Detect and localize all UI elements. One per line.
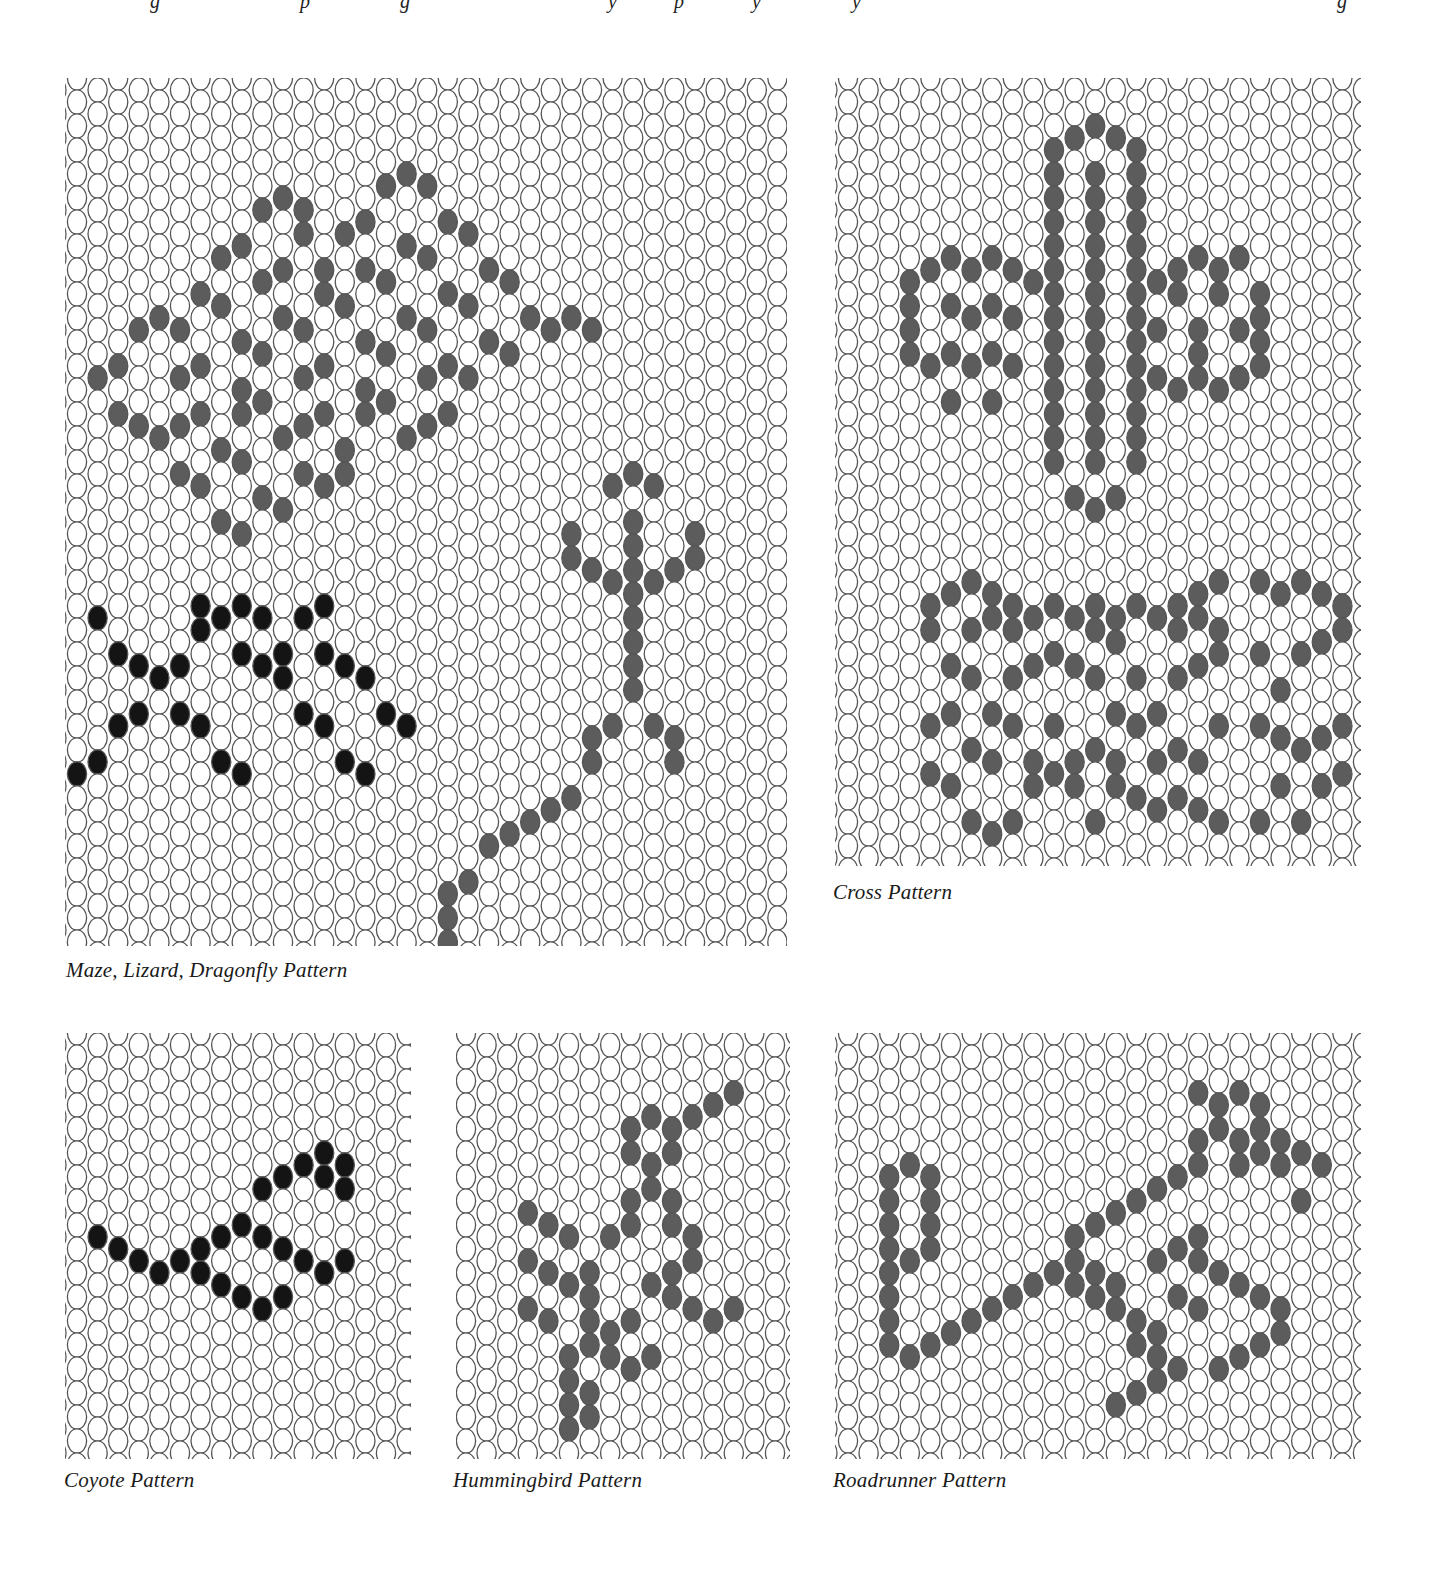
text-fragment: y xyxy=(852,0,861,13)
top-page-fragment: g p g y p y y g xyxy=(0,0,1435,14)
bead-grid xyxy=(65,78,787,946)
pattern-panel-roadrunner xyxy=(835,1033,1361,1459)
text-fragment: y xyxy=(608,0,617,13)
pattern-panel-coyote xyxy=(65,1033,411,1459)
pattern-panel-maze-lizard-dragonfly xyxy=(65,78,787,946)
pattern-panel-hummingbird xyxy=(456,1033,790,1459)
caption-maze-lizard-dragonfly: Maze, Lizard, Dragonfly Pattern xyxy=(66,958,347,983)
pattern-panel-cross xyxy=(835,78,1361,866)
text-fragment: g xyxy=(1337,0,1347,13)
text-fragment: g xyxy=(150,0,160,13)
bead-grid xyxy=(65,1033,411,1459)
caption-hummingbird: Hummingbird Pattern xyxy=(453,1468,642,1493)
caption-cross: Cross Pattern xyxy=(833,880,952,905)
bead-grid xyxy=(835,1033,1361,1459)
bead-grid xyxy=(835,78,1361,866)
caption-coyote: Coyote Pattern xyxy=(64,1468,195,1493)
text-fragment: p xyxy=(300,0,310,13)
text-fragment: p xyxy=(674,0,684,13)
caption-roadrunner: Roadrunner Pattern xyxy=(833,1468,1006,1493)
text-fragment: y xyxy=(752,0,761,13)
bead-grid xyxy=(456,1033,790,1459)
text-fragment: g xyxy=(400,0,410,13)
